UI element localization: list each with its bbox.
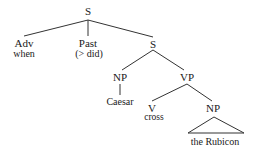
word-did: (> did)	[75, 49, 103, 59]
edge-s-np	[122, 50, 153, 70]
np-triangle	[188, 117, 244, 133]
edge-s-s	[88, 20, 153, 37]
edge-vp-np	[187, 84, 212, 101]
node-vp: VP	[180, 72, 194, 83]
node-np-subject: NP	[113, 72, 127, 83]
node-np-object: NP	[206, 103, 220, 114]
tree-edges	[0, 0, 258, 153]
word-when: when	[13, 49, 35, 59]
word-caesar: Caesar	[106, 97, 133, 107]
word-cross: cross	[144, 113, 164, 123]
edge-s-vp	[153, 50, 184, 70]
syntax-tree-diagram: S Adv when Past (> did) S NP Caesar VP V…	[0, 0, 258, 153]
node-root-s: S	[85, 6, 91, 17]
node-inner-s: S	[150, 39, 156, 50]
edge-vp-v	[152, 84, 187, 101]
word-the-rubicon: the Rubicon	[191, 137, 240, 147]
edge-s-adv	[24, 20, 88, 36]
